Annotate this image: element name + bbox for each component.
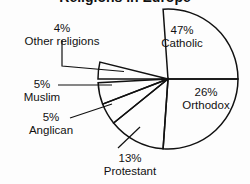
pie-label-orthodox-pct: 26% [172,86,240,99]
pie-slice-muslim [98,79,168,104]
pie-label-other-religions: 4% Other religions [2,22,122,48]
pie-chart-figure: Religions in Europe 47% Catholic 26% Ort… [0,0,250,184]
pie-label-protestant-name: Protestant [84,165,176,178]
pie-label-muslim: 5% Muslim [8,78,76,104]
pie-label-catholic-pct: 47% [152,24,212,37]
pie-label-other-religions-pct: 4% [2,22,122,35]
pie-label-catholic-name: Catholic [152,37,212,50]
pie-label-other-religions-name: Other religions [2,35,122,48]
pie-label-muslim-name: Muslim [8,91,76,104]
pie-label-orthodox: 26% Orthodox [172,86,240,112]
pie-label-anglican-name: Anglican [12,124,90,137]
pie-label-anglican-pct: 5% [12,111,90,124]
pie-label-muslim-pct: 5% [8,78,76,91]
pie-label-orthodox-name: Orthodox [172,99,240,112]
pie-label-catholic: 47% Catholic [152,24,212,50]
pie-label-protestant-pct: 13% [84,152,176,165]
pie-label-protestant: 13% Protestant [84,152,176,178]
pie-label-anglican: 5% Anglican [12,111,90,137]
